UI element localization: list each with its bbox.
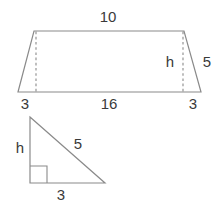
label-trapezoid-height: h [166, 53, 174, 70]
triangle-outline [30, 117, 105, 183]
right-angle-marker-icon [30, 166, 47, 183]
label-trapezoid-slant-right: 5 [203, 53, 211, 70]
geometry-figure: 10 h 5 3 16 3 h 5 3 [0, 0, 218, 211]
right-triangle-shape [30, 117, 105, 183]
label-triangle-base: 3 [57, 186, 65, 203]
figure-canvas: 10 h 5 3 16 3 h 5 3 [0, 0, 218, 211]
label-trapezoid-base-right: 3 [189, 95, 197, 112]
label-trapezoid-base-left: 3 [21, 95, 29, 112]
label-triangle-height: h [16, 139, 24, 156]
label-trapezoid-top: 10 [100, 8, 117, 25]
label-triangle-hypotenuse: 5 [74, 135, 82, 152]
label-trapezoid-base-middle: 16 [101, 95, 118, 112]
